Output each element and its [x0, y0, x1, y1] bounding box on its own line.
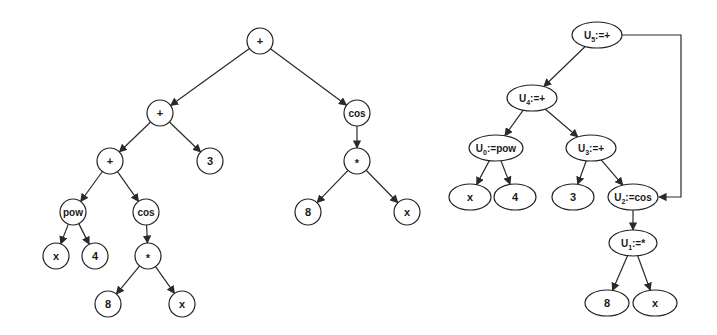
tree-node: cos	[133, 199, 159, 225]
tree-node-label: 8	[105, 298, 111, 310]
dag-node-op: :=+	[595, 30, 610, 41]
tree-node: *	[135, 243, 161, 269]
expression-tree: ++cos+3*powcos8xx4*8x	[43, 28, 420, 317]
tree-node-label: x	[53, 250, 60, 262]
dag-node-op: :=cos	[625, 192, 652, 203]
dag-node: 4	[494, 184, 536, 210]
dag-edge	[601, 160, 623, 185]
tree-edge	[117, 172, 138, 202]
dag-node: x	[633, 290, 677, 316]
tree-edge	[366, 170, 398, 202]
tree-node-label: 3	[207, 155, 213, 167]
tree-edge	[169, 122, 200, 152]
tree-node: pow	[60, 199, 86, 225]
tree-node-label: *	[355, 157, 360, 169]
tree-node-label: x	[179, 298, 186, 310]
tree-node-label: pow	[63, 207, 83, 218]
dag-node-var: U	[476, 143, 483, 154]
tree-node: +	[247, 28, 273, 54]
dag-edge	[544, 46, 585, 86]
tree-node: 4	[82, 243, 108, 269]
tree-edge	[147, 225, 148, 243]
tree-edge	[171, 49, 250, 106]
dag-edge	[505, 110, 523, 136]
tree-node: +	[147, 100, 173, 126]
dag-node: U3:=+	[566, 135, 616, 161]
dag-node-var: U	[578, 143, 585, 154]
dag-edge	[545, 109, 578, 137]
dag-node: 3	[552, 184, 594, 210]
tree-node-label: +	[257, 35, 263, 47]
dag-node-label: x	[467, 191, 474, 203]
tree-edge	[317, 170, 348, 202]
dag: U5:=+U4:=+U0:=powU3:=+x43U2:=cosU1:=*8x	[449, 22, 677, 316]
dag-edge	[578, 161, 587, 185]
tree-node-label: cos	[137, 207, 155, 218]
dag-node: 8	[585, 290, 629, 316]
tree-edge	[81, 172, 103, 202]
tree-node-label: +	[107, 155, 113, 167]
tree-edge	[119, 122, 150, 152]
dag-node-var: U	[614, 192, 621, 203]
dag-node-op: :=+	[530, 93, 545, 104]
dag-node-label: 8	[604, 297, 610, 309]
dag-edge	[501, 161, 510, 185]
tree-node: +	[97, 148, 123, 174]
tree-node: 3	[197, 148, 223, 174]
tree-node-label: 4	[92, 250, 99, 262]
tree-node: 8	[295, 199, 321, 225]
tree-node-label: cos	[348, 108, 366, 119]
dag-node-label: x	[652, 297, 659, 309]
tree-node: 8	[95, 291, 121, 317]
dag-edge	[612, 256, 627, 291]
dag-node-op: :=+	[589, 143, 604, 154]
dag-node-op: :=*	[632, 238, 645, 249]
tree-node: x	[43, 243, 69, 269]
tree-edge	[61, 224, 69, 244]
tree-node-label: 8	[305, 206, 311, 218]
dag-node-label: 3	[570, 191, 576, 203]
tree-edge	[270, 49, 346, 106]
dag-node-label: 4	[512, 191, 519, 203]
tree-edge	[79, 224, 89, 245]
tree-node: x	[169, 291, 195, 317]
tree-node: x	[394, 199, 420, 225]
dag-node: U4:=+	[507, 85, 557, 111]
tree-edge	[156, 267, 175, 294]
tree-edge	[116, 266, 139, 294]
tree-node-label: x	[404, 206, 411, 218]
dag-node-var: U	[621, 238, 628, 249]
dag-shared-edge	[622, 35, 681, 197]
tree-node-label: *	[146, 252, 151, 264]
dag-node: U5:=+	[572, 22, 622, 48]
dag-node-op: :=pow	[487, 143, 516, 154]
tree-node: cos	[344, 100, 370, 126]
dag-node-var: U	[519, 93, 526, 104]
diagram-canvas: ++cos+3*powcos8xx4*8x U5:=+U4:=+U0:=powU…	[0, 0, 717, 335]
dag-node: U0:=pow	[469, 135, 523, 161]
dag-node: x	[449, 184, 491, 210]
tree-node-label: +	[157, 107, 163, 119]
dag-node: U1:=*	[609, 230, 657, 256]
dag-node: U2:=cos	[608, 184, 658, 210]
dag-node-var: U	[584, 30, 591, 41]
tree-node: *	[344, 148, 370, 174]
dag-edge	[477, 161, 490, 185]
dag-edge	[638, 256, 651, 291]
